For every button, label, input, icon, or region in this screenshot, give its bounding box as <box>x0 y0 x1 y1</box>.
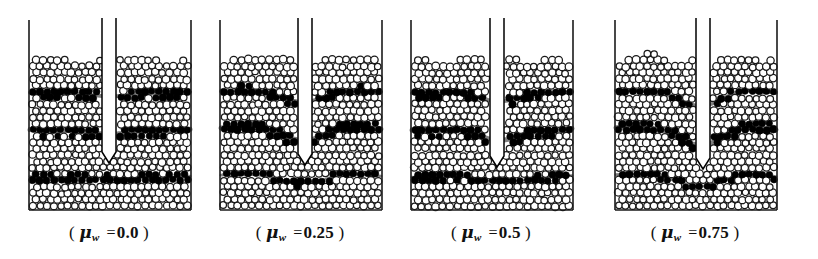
mu-subscript-w: w <box>279 231 286 243</box>
simulation-panel: ( μw =0.75 ) <box>600 0 790 259</box>
mu-glyph: μ <box>266 222 279 242</box>
friction-symbol: μw <box>661 223 681 242</box>
penetrometer-probe-body <box>102 18 116 163</box>
figure-root: ( μw =0.0 )( μw =0.25 )( μw =0.5 )( μw =… <box>0 0 818 259</box>
penetrometer-probe-body <box>298 18 312 165</box>
mu-glyph: μ <box>661 222 674 242</box>
caption-open-paren: ( <box>651 223 661 242</box>
caption-close-paren: ) <box>521 223 531 242</box>
simulation-panel: ( μw =0.0 ) <box>14 0 204 259</box>
panel-caption: ( μw =0.0 ) <box>14 222 204 243</box>
friction-symbol: μw <box>461 223 481 242</box>
panel-caption: ( μw =0.25 ) <box>205 222 395 243</box>
mu-glyph: μ <box>461 222 474 242</box>
caption-close-paren: ) <box>729 223 739 242</box>
panel-caption: ( μw =0.5 ) <box>396 222 586 243</box>
granular-bed-illustration <box>396 0 586 215</box>
friction-value: 0.0 <box>117 223 139 242</box>
caption-equals-sign: = <box>481 224 498 241</box>
caption-close-paren: ) <box>334 223 344 242</box>
caption-open-paren: ( <box>451 223 461 242</box>
granular-bed-illustration <box>205 0 395 215</box>
mu-subscript-w: w <box>674 231 681 243</box>
simulation-panel: ( μw =0.5 ) <box>396 0 586 259</box>
mu-glyph: μ <box>79 222 92 242</box>
simulation-panel: ( μw =0.25 ) <box>205 0 395 259</box>
caption-close-paren: ) <box>139 223 149 242</box>
caption-open-paren: ( <box>69 223 79 242</box>
caption-open-paren: ( <box>256 223 266 242</box>
panel-caption: ( μw =0.75 ) <box>600 222 790 243</box>
caption-equals-sign: = <box>286 224 303 241</box>
granular-bed-illustration <box>600 0 790 215</box>
friction-value: 0.5 <box>499 223 521 242</box>
caption-equals-sign: = <box>681 224 698 241</box>
caption-equals-sign: = <box>99 224 116 241</box>
granular-bed-illustration <box>14 0 204 215</box>
friction-value: 0.25 <box>303 223 334 242</box>
penetrometer-probe-body <box>490 18 504 167</box>
penetrometer-probe-body <box>696 18 710 169</box>
friction-value: 0.75 <box>698 223 729 242</box>
friction-symbol: μw <box>266 223 286 242</box>
friction-symbol: μw <box>79 223 99 242</box>
